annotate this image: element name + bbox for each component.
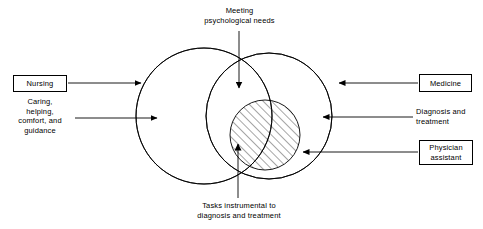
medicine-box-label: Medicine [430,79,461,88]
physician-assistant-box[interactable]: Physician assistant [419,140,473,165]
venn-diagram-canvas [0,0,483,229]
nursing-box[interactable]: Nursing [13,75,67,92]
medicine-box[interactable]: Medicine [419,74,472,92]
tasks-instrumental-label: Tasks instrumental to diagnosis and trea… [177,201,301,220]
venn-diagram: Nursing Caring, helping, comfort, and gu… [0,0,483,229]
nursing-box-label: Nursing [27,79,54,88]
meeting-psychological-needs-label: Meeting psychological needs [182,6,297,25]
diagnosis-and-treatment-label: Diagnosis and treatment [416,107,482,126]
nursing-detail-label: Caring, helping, comfort, and guidance [8,97,72,135]
physician-assistant-box-label: Physician assistant [429,143,462,162]
shared-tasks-circle [230,100,300,170]
